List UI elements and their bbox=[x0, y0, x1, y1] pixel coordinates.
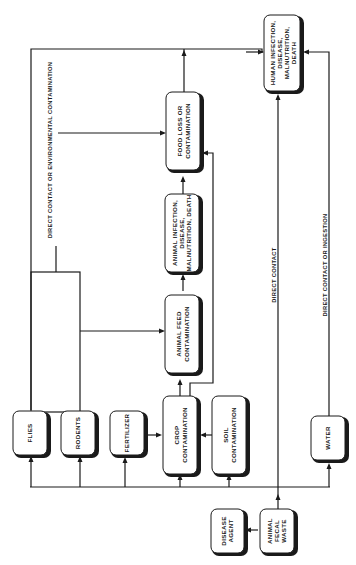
svg-text:FOOD LOSS OR: FOOD LOSS OR bbox=[176, 105, 183, 156]
arrow-crop-feed bbox=[178, 379, 183, 385]
svg-text:ANIMAL INFECTION,: ANIMAL INFECTION, bbox=[171, 200, 178, 266]
svg-text:ANIMAL: ANIMAL bbox=[266, 518, 273, 544]
svg-text:WASTE: WASTE bbox=[280, 519, 287, 543]
fecal-waste-contamination-diagram: HUMAN INFECTION, DISEASE, MALNUTRITION, … bbox=[0, 0, 356, 565]
arrow-to-human-left bbox=[258, 50, 264, 55]
svg-text:FLIES: FLIES bbox=[26, 423, 33, 442]
node-flies: FLIES bbox=[13, 411, 51, 458]
label-direct-contact: DIRECT CONTACT bbox=[271, 247, 277, 302]
node-rodents: RODENTS bbox=[61, 411, 99, 458]
svg-text:CONTAMINATION: CONTAMINATION bbox=[230, 407, 237, 463]
frame-flies-rodents bbox=[31, 272, 80, 412]
node-disease-agent: DISEASE AGENT bbox=[211, 509, 248, 556]
svg-text:MALNUTRITION, DEATH: MALNUTRITION, DEATH bbox=[185, 194, 192, 271]
line-flies-to-human bbox=[31, 49, 262, 410]
arrow-water bbox=[327, 463, 332, 469]
svg-text:ANIMAL FEED: ANIMAL FEED bbox=[175, 311, 182, 357]
svg-text:WATER: WATER bbox=[324, 426, 331, 450]
node-crop-contamination: CROP CONTAMINATION bbox=[163, 396, 201, 477]
svg-text:DISEASE,: DISEASE, bbox=[276, 37, 283, 68]
node-water: WATER bbox=[311, 416, 349, 463]
node-human-infection: HUMAN INFECTION, DISEASE, MALNUTRITION, … bbox=[264, 15, 304, 94]
svg-text:DIRECT CONTACT: DIRECT CONTACT bbox=[271, 247, 277, 302]
svg-text:DISEASE,: DISEASE, bbox=[178, 217, 185, 248]
svg-text:HUMAN INFECTION,: HUMAN INFECTION, bbox=[269, 21, 276, 86]
svg-text:CONTAMINATION: CONTAMINATION bbox=[181, 407, 188, 463]
svg-text:DIRECT CONTACT OR INGESTION: DIRECT CONTACT OR INGESTION bbox=[322, 214, 328, 317]
node-food-loss: FOOD LOSS OR CONTAMINATION bbox=[166, 92, 204, 173]
arrow-to-foodloss bbox=[160, 131, 166, 136]
node-fertilizer: FERTILIZER bbox=[110, 411, 148, 458]
svg-text:CROP: CROP bbox=[173, 425, 180, 444]
svg-text:CONTAMINATION: CONTAMINATION bbox=[184, 103, 191, 159]
svg-text:MALNUTRITION,: MALNUTRITION, bbox=[283, 27, 290, 80]
svg-text:DEATH: DEATH bbox=[290, 42, 297, 65]
arrow-waste-human bbox=[276, 94, 281, 100]
svg-text:CONTAMINATION: CONTAMINATION bbox=[183, 306, 190, 362]
arrow-waste-up bbox=[276, 494, 281, 500]
node-soil-contamination: SOIL CONTAMINATION bbox=[212, 396, 250, 477]
svg-text:DISEASE: DISEASE bbox=[220, 516, 227, 545]
svg-text:FECAL: FECAL bbox=[273, 520, 280, 542]
svg-text:FERTILIZER: FERTILIZER bbox=[123, 413, 130, 452]
svg-text:AGENT: AGENT bbox=[227, 519, 234, 542]
node-animal-fecal-waste: ANIMAL FECAL WASTE bbox=[260, 509, 298, 556]
node-animal-infection: ANIMAL INFECTION, DISEASE, MALNUTRITION,… bbox=[165, 194, 203, 275]
svg-text:DIRECT CONTACT OR ENVIRONMENTA: DIRECT CONTACT OR ENVIRONMENTAL CONTAMIN… bbox=[47, 62, 53, 239]
svg-text:SOIL: SOIL bbox=[222, 427, 229, 443]
arrow-to-animalfeed bbox=[159, 329, 165, 334]
label-environmental-contamination: DIRECT CONTACT OR ENVIRONMENTAL CONTAMIN… bbox=[47, 62, 53, 239]
arrow-infection-foodloss bbox=[181, 176, 186, 182]
label-direct-contact-ingestion: DIRECT CONTACT OR INGESTION bbox=[322, 214, 328, 317]
arrow-fert-crop bbox=[156, 433, 162, 438]
node-animal-feed: ANIMAL FEED CONTAMINATION bbox=[165, 295, 203, 376]
arrow-food-up bbox=[182, 50, 187, 56]
svg-text:RODENTS: RODENTS bbox=[74, 417, 81, 449]
